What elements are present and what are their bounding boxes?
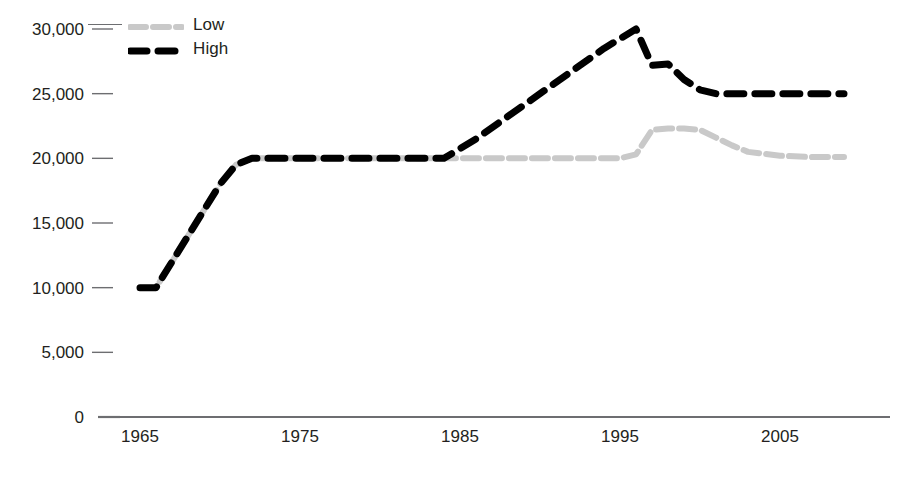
y-axis-tick-label: 25,000 (0, 86, 84, 103)
y-axis-tick-label: 5,000 (0, 344, 84, 361)
x-axis-tick-label: 1995 (580, 428, 660, 445)
x-axis-tick-label: 1965 (100, 428, 180, 445)
y-axis-tick-label: 30,000 (0, 21, 84, 38)
data-series-group (140, 29, 844, 288)
x-axis-tick-label: 1985 (420, 428, 500, 445)
y-axis-ticks (92, 29, 120, 417)
y-axis-tick-label: 20,000 (0, 150, 84, 167)
x-axis-tick-label: 1975 (260, 428, 340, 445)
y-axis-tick-label: 0 (0, 409, 84, 426)
y-axis-tick-label: 10,000 (0, 280, 84, 297)
plot-area (0, 0, 908, 483)
y-axis-tick-label: 15,000 (0, 215, 84, 232)
x-axis-tick-label: 2005 (740, 428, 820, 445)
chart-container: Low High 05,00010,00015,00020,00025,0003… (0, 0, 908, 483)
series-line-low (140, 129, 844, 288)
